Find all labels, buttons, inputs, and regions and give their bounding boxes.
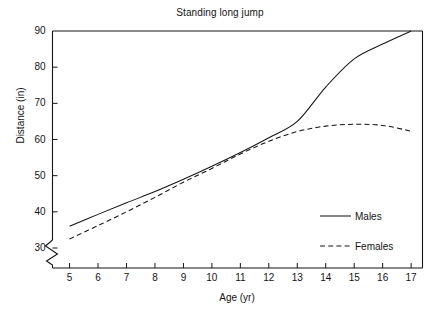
y-tick-label: 40 (20, 207, 46, 217)
chart-figure: Standing long jump Distance (in) Age (yr… (0, 0, 440, 314)
x-tick-label: 10 (200, 273, 224, 283)
plot-area (0, 0, 440, 314)
chart-title: Standing long jump (0, 7, 440, 18)
tick-marks-group (53, 67, 412, 268)
x-tick-label: 16 (371, 273, 395, 283)
y-tick-label: 80 (20, 62, 46, 72)
x-tick-label: 14 (314, 273, 338, 283)
y-tick-label: 50 (20, 171, 46, 181)
x-tick-label: 13 (285, 273, 309, 283)
x-tick-label: 8 (143, 273, 167, 283)
y-tick-label: 30 (20, 243, 46, 253)
data-series-group (70, 31, 412, 239)
x-axis-label: Age (yr) (52, 292, 422, 303)
y-axis-label: Distance (in) (15, 56, 26, 176)
y-tick-label: 70 (20, 98, 46, 108)
series-line-males (70, 31, 412, 226)
x-tick-label: 17 (399, 273, 423, 283)
x-tick-label: 6 (86, 273, 110, 283)
y-tick-label: 90 (20, 26, 46, 36)
x-tick-label: 11 (228, 273, 252, 283)
x-tick-label: 9 (171, 273, 195, 283)
axes-group (46, 31, 423, 268)
y-tick-label: 60 (20, 135, 46, 145)
legend-label-females: Females (355, 241, 393, 252)
y-axis-break-zigzag (46, 240, 58, 268)
x-tick-label: 5 (58, 273, 82, 283)
legend-sample-lines (320, 216, 351, 246)
legend-label-males: Males (355, 211, 382, 222)
x-tick-label: 15 (342, 273, 366, 283)
x-tick-label: 12 (257, 273, 281, 283)
x-tick-label: 7 (115, 273, 139, 283)
